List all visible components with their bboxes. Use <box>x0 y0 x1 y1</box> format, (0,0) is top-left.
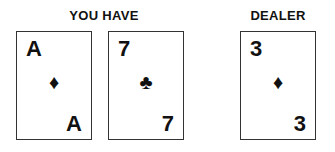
dealer-card-1: 3 ♦ 3 <box>240 31 316 140</box>
card-rank-top: 3 <box>250 38 262 60</box>
player-card-1: A ♦ A <box>16 31 92 140</box>
club-suit-icon: ♣ <box>109 72 183 92</box>
player-hand-label: YOU HAVE <box>54 8 154 23</box>
dealer-hand-label: DEALER <box>240 8 316 23</box>
diamond-suit-icon: ♦ <box>17 72 91 92</box>
card-rank-top: 7 <box>118 38 130 60</box>
card-rank-bottom: A <box>66 113 82 135</box>
card-rank-bottom: 3 <box>294 113 306 135</box>
card-rank-top: A <box>26 38 42 60</box>
diamond-suit-icon: ♦ <box>241 72 315 92</box>
card-rank-bottom: 7 <box>162 113 174 135</box>
player-card-2: 7 ♣ 7 <box>108 31 184 140</box>
